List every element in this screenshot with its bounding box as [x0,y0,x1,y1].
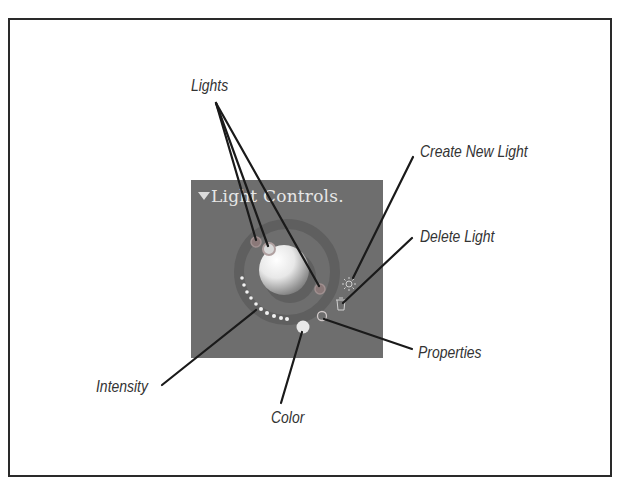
callout-color: Color [271,408,304,428]
callout-create-new-light: Create New Light [420,142,528,162]
callout-delete-light: Delete Light [420,227,494,247]
light-handle-2[interactable] [263,243,275,255]
light-controls-graphics [0,0,624,488]
callout-intensity: Intensity [96,377,148,397]
sun-icon[interactable] [342,277,356,291]
callout-properties: Properties [418,343,482,363]
trash-icon[interactable] [336,298,346,310]
light-handle-3[interactable] [315,284,325,294]
callout-lights: Lights [191,76,228,96]
